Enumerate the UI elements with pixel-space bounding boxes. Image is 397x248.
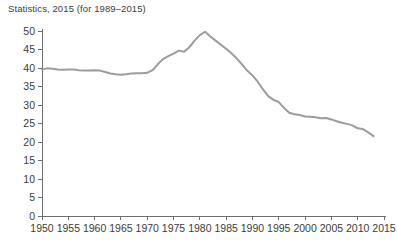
y-tick-label: 5 bbox=[29, 191, 35, 203]
y-tick-label: 30 bbox=[23, 99, 35, 111]
y-tick-label: 45 bbox=[23, 43, 35, 55]
y-tick-label: 15 bbox=[23, 154, 35, 166]
chart-figure: Statistics, 2015 (for 1989–2015) 0510152… bbox=[0, 0, 397, 248]
line-chart-plot: 05101520253035404550 1950195519601965197… bbox=[0, 0, 397, 248]
x-tick-label: 1975 bbox=[162, 222, 186, 234]
y-tick-label: 0 bbox=[29, 210, 35, 222]
x-tick-label: 2005 bbox=[320, 222, 344, 234]
x-tick-label: 1955 bbox=[57, 222, 81, 234]
y-tick-label: 35 bbox=[23, 80, 35, 92]
y-tick-label: 25 bbox=[23, 117, 35, 129]
x-tick-label: 1980 bbox=[188, 222, 212, 234]
x-tick-label: 2010 bbox=[346, 222, 370, 234]
x-tick-label: 1990 bbox=[241, 222, 265, 234]
x-axis: 1950195519601965197019751980198519901995… bbox=[30, 216, 396, 234]
x-tick-label: 1960 bbox=[83, 222, 107, 234]
x-tick-label: 1950 bbox=[30, 222, 54, 234]
x-tick-label: 1970 bbox=[136, 222, 160, 234]
y-axis: 05101520253035404550 bbox=[23, 25, 42, 222]
x-tick-label: 1995 bbox=[267, 222, 291, 234]
data-series-group bbox=[42, 32, 373, 136]
y-tick-label: 20 bbox=[23, 136, 35, 148]
y-tick-label: 40 bbox=[23, 62, 35, 74]
x-tick-label: 1965 bbox=[109, 222, 133, 234]
y-tick-label: 10 bbox=[23, 173, 35, 185]
x-tick-label: 1985 bbox=[214, 222, 238, 234]
x-tick-label: 2000 bbox=[293, 222, 317, 234]
y-tick-label: 50 bbox=[23, 25, 35, 37]
x-tick-label: 2015 bbox=[372, 222, 396, 234]
data-line-rate bbox=[42, 32, 373, 136]
